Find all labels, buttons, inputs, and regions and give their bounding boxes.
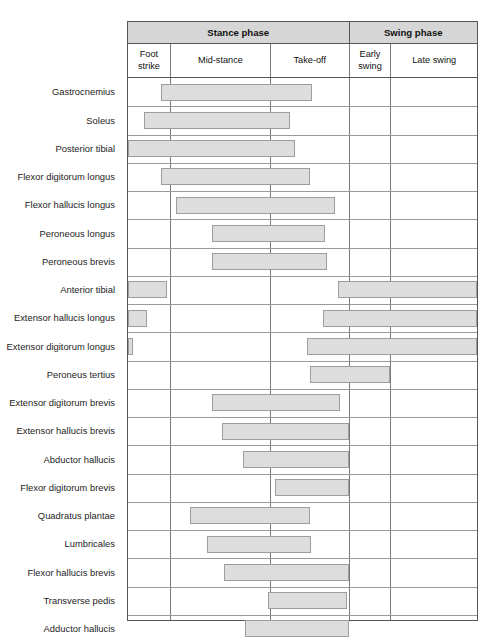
activity-bar <box>161 84 312 101</box>
activity-bar <box>275 479 348 496</box>
activity-bar <box>310 366 391 383</box>
muscle-label: Extensor hallucis brevis <box>17 426 115 435</box>
subphase-header-early-swing: Early swing <box>349 44 391 77</box>
muscle-label: Extensor hallucis longus <box>14 313 115 322</box>
muscle-label: Anterior tibial <box>60 285 115 294</box>
subphase-header-late-swing: Late swing <box>390 44 477 77</box>
row-divider <box>128 474 477 475</box>
muscle-label-row: Transverse pedis <box>0 587 121 615</box>
muscle-label: Peroneous brevis <box>42 257 115 266</box>
muscle-label-row: Abductor hallucis <box>0 445 121 473</box>
activity-bar <box>176 197 335 214</box>
muscle-label-row: Gastrocnemius <box>0 78 121 106</box>
phase-header-swing-phase: Swing phase <box>349 22 477 43</box>
activity-bar <box>190 507 309 524</box>
activity-bar <box>161 168 310 185</box>
row-divider <box>128 106 477 107</box>
muscle-label-column: GastrocnemiusSoleusPosterior tibialFlexo… <box>0 78 121 641</box>
muscle-label: Abductor hallucis <box>44 455 115 464</box>
muscle-label: Flexor digitorum brevis <box>20 483 115 492</box>
muscle-label: Quadratus plantae <box>38 511 115 520</box>
activity-bar <box>128 338 133 355</box>
muscle-label-row: Peroneus tertius <box>0 361 121 389</box>
row-divider <box>128 587 477 588</box>
muscle-label-row: Flexor digitorum longus <box>0 163 121 191</box>
phase-header-stance-phase: Stance phase <box>128 22 349 43</box>
chart-plot-area <box>128 78 477 620</box>
muscle-label-row: Anterior tibial <box>0 276 121 304</box>
subphase-header-foot-strike: Foot strike <box>128 44 170 77</box>
muscle-label: Adductor hallucis <box>44 624 115 633</box>
muscle-label-row: Extensor hallucis longus <box>0 304 121 332</box>
activity-bar <box>128 140 295 157</box>
row-divider <box>128 219 477 220</box>
muscle-label-row: Posterior tibial <box>0 135 121 163</box>
row-divider <box>128 389 477 390</box>
subphase-header-row: Foot strikeMid-stanceTake-offEarly swing… <box>128 44 477 78</box>
row-divider <box>128 276 477 277</box>
activity-bar <box>222 423 349 440</box>
row-divider <box>128 417 477 418</box>
activity-bar <box>212 225 324 242</box>
muscle-label: Flexor hallucis brevis <box>27 568 115 577</box>
activity-bar <box>224 564 349 581</box>
row-divider <box>128 191 477 192</box>
muscle-label: Flexor digitorum longus <box>18 172 115 181</box>
row-divider <box>128 304 477 305</box>
column-divider <box>170 78 171 620</box>
muscle-label: Extensor digitorum brevis <box>9 398 115 407</box>
activity-bar <box>307 338 477 355</box>
muscle-label: Peroneous longus <box>39 229 115 238</box>
muscle-label-row: Lumbricales <box>0 530 121 558</box>
muscle-label: Lumbricales <box>64 539 115 548</box>
row-divider <box>128 502 477 503</box>
gait-chart-table: Stance phaseSwing phase Foot strikeMid-s… <box>127 21 478 621</box>
muscle-label-row: Extensor digitorum longus <box>0 332 121 360</box>
muscle-label-row: Flexor hallucis longus <box>0 191 121 219</box>
row-divider <box>128 361 477 362</box>
activity-bar <box>128 281 167 298</box>
activity-bar <box>128 310 147 327</box>
activity-bar <box>268 592 347 609</box>
activity-bar <box>212 253 326 270</box>
muscle-label-row: Peroneous longus <box>0 219 121 247</box>
subphase-header-mid-stance: Mid-stance <box>170 44 270 77</box>
activity-bar <box>338 281 477 298</box>
muscle-label-row: Soleus <box>0 106 121 134</box>
muscle-label-row: Flexor hallucis brevis <box>0 558 121 586</box>
muscle-label-row: Extensor digitorum brevis <box>0 389 121 417</box>
muscle-label: Peroneus tertius <box>47 370 115 379</box>
activity-bar <box>212 394 339 411</box>
muscle-label-row: Flexor digitorum brevis <box>0 474 121 502</box>
activity-bar <box>144 112 290 129</box>
row-divider <box>128 135 477 136</box>
muscle-label: Soleus <box>86 116 115 125</box>
muscle-label: Flexor hallucis longus <box>25 200 115 209</box>
activity-bar <box>245 620 348 637</box>
muscle-label-row: Peroneous brevis <box>0 248 121 276</box>
phase-header-row: Stance phaseSwing phase <box>128 22 477 44</box>
row-divider <box>128 445 477 446</box>
muscle-label: Gastrocnemius <box>52 87 115 96</box>
row-divider <box>128 530 477 531</box>
muscle-label-row: Quadratus plantae <box>0 502 121 530</box>
muscle-label: Transverse pedis <box>43 596 115 605</box>
muscle-label-row: Adductor hallucis <box>0 615 121 641</box>
row-divider <box>128 163 477 164</box>
row-divider <box>128 248 477 249</box>
activity-bar <box>323 310 477 327</box>
activity-bar <box>243 451 348 468</box>
muscle-label: Posterior tibial <box>56 144 115 153</box>
row-divider <box>128 558 477 559</box>
muscle-label: Extensor digitorum longus <box>7 342 115 351</box>
muscle-label-row: Extensor hallucis brevis <box>0 417 121 445</box>
row-divider <box>128 615 477 616</box>
subphase-header-take-off: Take-off <box>270 44 349 77</box>
activity-bar <box>207 536 311 553</box>
row-divider <box>128 332 477 333</box>
